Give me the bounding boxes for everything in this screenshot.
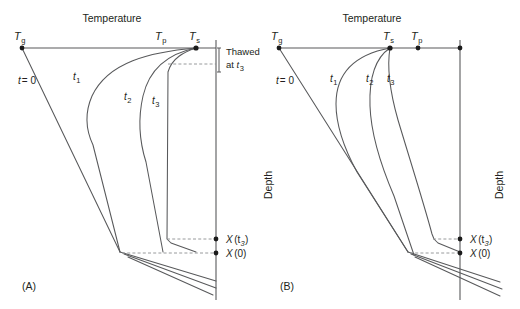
panel-a-dot-ts xyxy=(193,45,198,50)
panel-b-dot-xt3 xyxy=(458,237,463,242)
panel-b-dot-axis-top xyxy=(458,46,463,51)
panel-b-xt3-close: ) xyxy=(489,234,492,245)
temperature-depth-diagram: Temperature Tg Tp Ts t= 0 t1 xyxy=(0,0,520,309)
panel-a-label-xt3: X(t3) xyxy=(225,234,248,248)
panel-a-label-x0: X(0) xyxy=(225,248,246,259)
panel-b-x0-paren: (0) xyxy=(478,248,490,259)
panel-a-curve-t1 xyxy=(87,48,196,252)
panel-b-ts-subscript: s xyxy=(390,36,394,45)
panel-a-ts-subscript: s xyxy=(196,36,200,45)
panel-a-xt3-x: X xyxy=(225,234,233,245)
panel-b-fan-line-2 xyxy=(411,254,502,289)
panel-b-xt3-x: X xyxy=(469,234,477,245)
panel-a: Temperature Tg Tp Ts t= 0 t1 xyxy=(14,12,260,300)
panel-a-label-t0: t= 0 xyxy=(18,75,36,86)
panel-b-label-t3: t3 xyxy=(387,73,394,87)
panel-b-dot-ts xyxy=(387,45,392,50)
panel-a-fan-line-2 xyxy=(124,254,216,288)
figure-root: Temperature Tg Tp Ts t= 0 t1 xyxy=(0,0,520,309)
panel-a-curve-t3 xyxy=(167,48,196,252)
panel-b-t1-subscript: 1 xyxy=(333,78,337,87)
panel-a-temperature-title: Temperature xyxy=(83,12,142,24)
panel-b-tp-subscript: p xyxy=(418,36,422,45)
panel-a-thawed-sub: 3 xyxy=(240,64,244,73)
panel-b-t0-rest: = 0 xyxy=(280,75,295,86)
panel-a-x0-paren: (0) xyxy=(234,248,246,259)
panel-a-dot-x0 xyxy=(214,251,219,256)
panel-a-thawed-line1: Thawed xyxy=(226,46,260,57)
depth-axis-label-left: Depth xyxy=(262,171,274,199)
panel-b-tg-subscript: g xyxy=(278,36,282,45)
panel-b-label-x0: X(0) xyxy=(469,248,490,259)
panel-b-t2-subscript: 2 xyxy=(369,78,373,87)
panel-a-xt3-open: (t xyxy=(234,234,240,245)
panel-b-x0-x: X xyxy=(469,248,477,259)
panel-b-label-ts: Ts xyxy=(383,30,394,45)
panel-a-label-tp: Tp xyxy=(155,30,166,45)
panel-a-xt3-close: ) xyxy=(245,234,248,245)
panel-b: Temperature Tg Ts Tp t= 0 t1 xyxy=(271,12,502,300)
panel-b-dot-tp xyxy=(416,46,421,51)
panel-b-panel-label: (B) xyxy=(280,280,294,292)
panel-a-x0-x: X xyxy=(225,248,233,259)
panel-b-label-t0: t= 0 xyxy=(276,75,294,86)
panel-a-tg-subscript: g xyxy=(21,36,25,45)
panel-a-t3-subscript: 3 xyxy=(155,100,159,109)
panel-a-thawed-bracket xyxy=(217,48,221,72)
panel-a-t1-subscript: 1 xyxy=(76,76,80,85)
panel-a-label-t2: t2 xyxy=(124,91,131,105)
depth-axis-label-right: Depth xyxy=(493,171,505,199)
panel-b-curve-t3 xyxy=(389,48,460,252)
panel-a-dot-tg xyxy=(20,46,25,51)
panel-b-label-tg: Tg xyxy=(271,30,282,45)
panel-b-label-t1: t1 xyxy=(330,73,337,87)
panel-a-fan-line-1 xyxy=(120,252,216,281)
panel-b-t3-subscript: 3 xyxy=(390,78,394,87)
panel-b-label-tp: Tp xyxy=(411,30,422,45)
panel-a-t2-subscript: 2 xyxy=(127,96,131,105)
panel-b-dot-x0 xyxy=(458,251,463,256)
panel-a-dot-xt3 xyxy=(214,237,219,242)
panel-a-label-t3: t3 xyxy=(152,95,159,109)
panel-b-temperature-title: Temperature xyxy=(343,12,402,24)
panel-a-tp-subscript: p xyxy=(162,36,166,45)
panel-b-label-xt3: X(t3) xyxy=(469,234,492,248)
panel-a-curve-t0 xyxy=(22,48,120,252)
panel-b-dot-tg xyxy=(277,46,282,51)
panel-a-thawed-at: at xyxy=(226,59,237,70)
panel-a-t0-rest: = 0 xyxy=(22,75,37,86)
panel-b-fan-line-3 xyxy=(415,257,500,296)
panel-a-thawed-line2: at t3 xyxy=(226,59,244,73)
panel-a-panel-label: (A) xyxy=(22,280,36,292)
panel-a-label-t1: t1 xyxy=(73,71,80,85)
panel-a-label-ts: Ts xyxy=(189,30,200,45)
panel-b-xt3-open: (t xyxy=(478,234,484,245)
panel-a-label-tg: Tg xyxy=(14,30,25,45)
